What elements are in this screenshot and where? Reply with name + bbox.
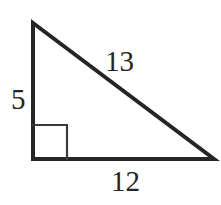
side-label-hypotenuse: 13 — [105, 47, 134, 76]
right-angle-marker-icon — [33, 125, 67, 159]
triangle-diagram-canvas: 5 13 12 — [0, 0, 221, 205]
triangle-outline — [33, 23, 214, 159]
side-label-leg-a: 5 — [11, 85, 26, 114]
side-label-leg-b: 12 — [111, 167, 140, 196]
